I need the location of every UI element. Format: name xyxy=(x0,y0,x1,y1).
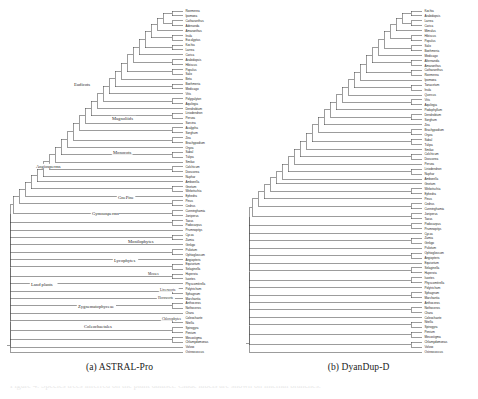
tip-label: Podocarpus xyxy=(424,222,441,226)
tip-label: Podocarpus xyxy=(185,223,202,227)
tip-label: Penium xyxy=(185,331,196,335)
tip-label: Inula xyxy=(424,88,431,92)
tip-label: Roemerea xyxy=(424,73,439,77)
tip-label: Amborella xyxy=(185,180,199,184)
tip-label: Chlamydomonas xyxy=(424,340,447,344)
tip-label: Arabidopsis xyxy=(424,14,440,18)
tip-label: Polytrichum xyxy=(424,286,440,290)
tip-label: Vitis xyxy=(424,98,430,102)
tip-label: Arabidopsis xyxy=(185,58,201,62)
tip-label: Sphagnum xyxy=(424,291,439,295)
tip-label: Cycas xyxy=(424,232,433,236)
tip-label: Cycas xyxy=(185,233,194,237)
tip-label: Anthoceros xyxy=(185,301,201,305)
tip-label: Dendrobium xyxy=(185,107,202,111)
tip-label: Hibiscus xyxy=(424,34,436,38)
tip-label: Dioscorea xyxy=(424,157,438,161)
clade-label: Mosses xyxy=(148,272,159,276)
tip-label: Nitella xyxy=(424,320,433,324)
tip-label: Catharanthus xyxy=(185,19,204,23)
tip-label: Physcomitrella xyxy=(424,281,444,285)
tip-label: Angiopteris xyxy=(424,256,440,260)
tip-label: Juniperus xyxy=(185,214,199,218)
tip-label: Mimulus xyxy=(424,29,436,33)
tip-label: Tulipa xyxy=(424,143,432,147)
tip-label: Isoetes xyxy=(424,276,434,280)
tip-label: Cedrus xyxy=(185,204,195,208)
tip-label: Volvox xyxy=(424,345,433,349)
tip-label: Sphagnum xyxy=(185,292,200,296)
tip-label: Colchicum xyxy=(185,165,200,169)
panel-dyandup-d: KochiaArabidopsisLarreaCaricaMimulusHibi… xyxy=(239,0,478,382)
tip-label: Sabal xyxy=(424,138,432,142)
tip-label: Populus xyxy=(185,68,196,72)
tip-label: Alternanda xyxy=(424,59,439,63)
tip-label: Ipomoea xyxy=(424,78,436,82)
tip-label: Chara xyxy=(185,311,194,315)
tip-label: Ostreococcus xyxy=(424,350,443,354)
tip-label: Equisetum xyxy=(424,261,439,265)
tip-label: Taxus xyxy=(424,217,432,221)
tip-label: Colchicum xyxy=(424,152,439,156)
clade-label: Zygnematophyceae xyxy=(78,304,114,309)
tip-label: Boehmeria xyxy=(185,82,200,86)
tip-label: Adenanda xyxy=(185,24,199,28)
tip-label: Larrea xyxy=(424,19,433,23)
tip-label: Salix xyxy=(185,72,192,76)
tip-label: Salix xyxy=(424,44,431,48)
clade-label: Angiosperms xyxy=(36,164,61,169)
tip-label: Physcomitrella xyxy=(185,282,205,286)
tip-label: Cedrus xyxy=(424,202,434,206)
tip-label: Liriodendron xyxy=(185,111,202,115)
tip-label: Amaranthus xyxy=(424,64,441,68)
tip-label: Roemerea xyxy=(185,9,200,13)
tip-label: Huperzia xyxy=(185,272,197,276)
tip-label: Anthoceros xyxy=(424,301,440,305)
tip-label: Juniperus xyxy=(424,212,438,216)
tip-label: Beta xyxy=(185,77,192,81)
figure-bottom-caption: Figure 4: Species trees inferred on the … xyxy=(0,386,478,399)
tip-label: Pinus xyxy=(424,197,432,201)
tip-label: Marchantia xyxy=(185,297,200,301)
tip-label: Polygalyton xyxy=(185,97,201,101)
tip-label: Nuphar xyxy=(424,172,434,176)
tip-label: Ephedra xyxy=(185,194,197,198)
clade-label: Monocots xyxy=(113,150,132,155)
clade-label: Land plants xyxy=(31,282,53,287)
tip-label: Chlamydomonas xyxy=(185,340,208,344)
tip-label: Smilax xyxy=(424,148,434,152)
tip-label: Podophyllum xyxy=(424,108,442,112)
clade-label: Hornworts xyxy=(158,296,174,300)
tip-label: Larrea xyxy=(185,48,194,52)
tip-label: Brachypodium xyxy=(185,141,205,145)
tip-label: Zamia xyxy=(185,238,194,242)
tip-label: Oryza xyxy=(185,146,193,150)
tip-label: Equisetum xyxy=(185,262,200,266)
tip-label: Polytrichum xyxy=(185,287,201,291)
tip-label: Selaginella xyxy=(185,267,200,271)
tip-label: Welwitschia xyxy=(424,187,440,191)
tip-label: Brachypodium xyxy=(424,128,444,132)
tip-label: Tanacetum xyxy=(424,83,439,87)
clade-label: Chlorophytes xyxy=(162,317,181,321)
tip-label: Taxus xyxy=(185,219,193,223)
tip-label: Kochia xyxy=(424,9,434,13)
tip-label: Sorghum xyxy=(185,131,198,135)
tip-label: Psilotum xyxy=(424,246,436,250)
tip-label: Dioscorea xyxy=(185,170,199,174)
cladogram-astral-pro: RoemereaIpomoeaCatharanthusAdenandaAmara… xyxy=(0,0,239,360)
tip-label: Nothoceros xyxy=(424,306,440,310)
tip-label: Dendrobium xyxy=(424,113,441,117)
tip-label: Pinus xyxy=(185,199,193,203)
tip-label: Mesostigma xyxy=(185,336,202,340)
tip-label: Spirogyra xyxy=(185,326,198,330)
tip-label: Nuphar xyxy=(185,175,195,179)
tip-label: Ginkgo xyxy=(185,243,195,247)
clade-label: GnePine xyxy=(118,195,134,200)
tip-label: Oryza xyxy=(424,133,432,137)
panel-astral-pro: RoemereaIpomoeaCatharanthusAdenandaAmara… xyxy=(0,0,239,382)
clade-label: Lycophytes xyxy=(114,258,135,263)
tip-label: Amaranthus xyxy=(185,29,202,33)
tip-label: Medicago xyxy=(185,87,199,91)
tip-label: Marchantia xyxy=(424,296,439,300)
